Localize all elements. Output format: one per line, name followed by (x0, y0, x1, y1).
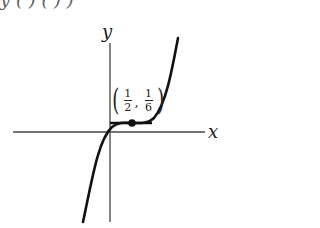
x-axis-label: x (208, 121, 218, 142)
x-denominator: 2 (124, 102, 131, 113)
left-paren: ( (112, 85, 119, 115)
cubic-curve (83, 38, 178, 222)
right-paren: ) (157, 85, 164, 115)
y-axis-label: y (102, 21, 112, 42)
point-coordinate-label: ( 1 2 , 1 6 ) (110, 85, 166, 115)
y-coordinate-fraction: 1 6 (145, 88, 153, 113)
inflection-point-dot (128, 119, 136, 127)
y-numerator: 1 (145, 88, 152, 99)
x-numerator: 1 (124, 88, 131, 99)
y-denominator: 6 (145, 102, 152, 113)
x-coordinate-fraction: 1 2 (124, 88, 132, 113)
comma: , (135, 95, 139, 115)
